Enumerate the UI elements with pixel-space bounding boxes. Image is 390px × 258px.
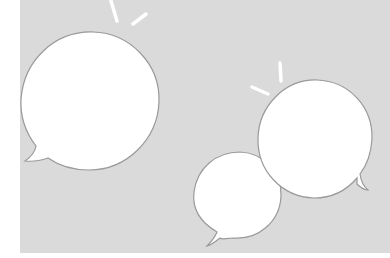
illustration-canvas bbox=[0, 0, 390, 258]
large-left-bubble bbox=[21, 32, 159, 170]
sparkle-icon-right bbox=[252, 63, 281, 94]
speech-bubbles-art bbox=[0, 0, 390, 258]
sparkle-icon-left bbox=[111, 1, 146, 24]
large-right-bubble bbox=[258, 80, 372, 198]
